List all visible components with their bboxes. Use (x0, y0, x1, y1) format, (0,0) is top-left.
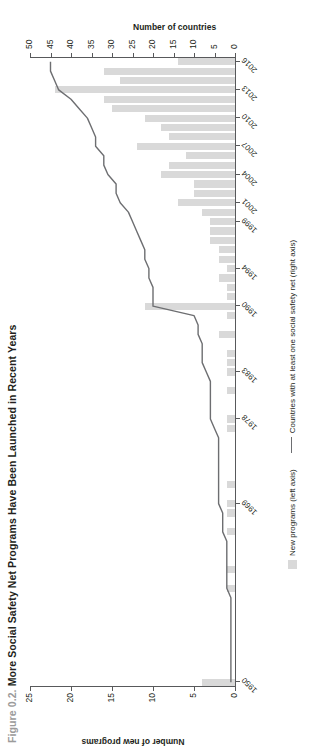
figure-title-text: More Social Safety Net Programs Have Bee… (6, 325, 18, 687)
legend-label-bars: New programs (left axis) (288, 469, 297, 556)
right-tick-label-0: 0 (229, 44, 239, 49)
x-tick-label-1950: 1950 (240, 676, 266, 702)
left-tick-label-20: 20 (65, 693, 75, 702)
x-tick-label-2004: 2004 (240, 168, 266, 194)
bottom-axis-line (235, 57, 236, 687)
right-tick-label-30: 30 (106, 40, 116, 49)
x-tick-label-1983: 1983 (240, 366, 266, 392)
legend-label-line: Countries with at least one social safet… (288, 240, 297, 433)
figure-container: Figure 0.2. More Social Safety Net Progr… (0, 0, 324, 749)
left-tick-0 (235, 687, 236, 691)
right-tick-label-45: 45 (45, 40, 55, 49)
right-tick-0 (235, 53, 236, 57)
chart-legend: New programs (left axis) Countries with … (288, 228, 297, 569)
right-tick-15 (174, 53, 175, 57)
line-series (30, 57, 235, 687)
plot-area: 0510152025 05101520253035404550 19501969… (30, 57, 235, 687)
left-axis-title: Number of new programs (81, 737, 184, 747)
x-tick-label-2010: 2010 (240, 112, 266, 138)
legend-item-line: Countries with at least one social safet… (288, 240, 297, 453)
x-tick-label-1978: 1978 (240, 413, 266, 439)
left-tick-25 (30, 687, 31, 691)
x-tick-label-2013: 2013 (240, 84, 266, 110)
x-tick-label-1969: 1969 (240, 497, 266, 523)
right-axis-title: Number of countries (133, 22, 216, 32)
right-tick-35 (92, 53, 93, 57)
figure-number: Figure 0.2. (6, 689, 18, 743)
right-tick-label-10: 10 (188, 40, 198, 49)
right-tick-label-20: 20 (147, 40, 157, 49)
right-tick-10 (194, 53, 195, 57)
right-tick-label-25: 25 (127, 40, 137, 49)
rotated-figure-canvas: Figure 0.2. More Social Safety Net Progr… (0, 0, 324, 749)
right-tick-label-15: 15 (168, 40, 178, 49)
left-tick-15 (112, 687, 113, 691)
line-swatch-icon (291, 437, 292, 453)
right-tick-5 (215, 53, 216, 57)
x-tick-label-2007: 2007 (240, 140, 266, 166)
left-tick-20 (71, 687, 72, 691)
right-tick-40 (71, 53, 72, 57)
right-tick-50 (30, 53, 31, 57)
left-tick-label-5: 5 (188, 693, 198, 698)
right-tick-25 (133, 53, 134, 57)
right-tick-30 (112, 53, 113, 57)
right-tick-20 (153, 53, 154, 57)
bar-swatch-icon (288, 560, 297, 569)
right-tick-45 (51, 53, 52, 57)
right-tick-label-50: 50 (24, 40, 34, 49)
x-tick-label-1994: 1994 (240, 262, 266, 288)
left-tick-10 (153, 687, 154, 691)
left-tick-5 (194, 687, 195, 691)
left-tick-label-25: 25 (24, 693, 34, 702)
x-tick-label-1990: 1990 (240, 300, 266, 326)
left-tick-label-0: 0 (229, 693, 239, 698)
right-tick-label-5: 5 (209, 44, 219, 49)
x-tick-label-2016: 2016 (240, 55, 266, 81)
right-tick-label-35: 35 (86, 40, 96, 49)
left-tick-label-15: 15 (106, 693, 116, 702)
line-path (51, 62, 231, 683)
right-tick-label-40: 40 (65, 40, 75, 49)
legend-item-bars: New programs (left axis) (288, 469, 297, 569)
left-tick-label-10: 10 (147, 693, 157, 702)
figure-title: Figure 0.2. More Social Safety Net Progr… (6, 325, 18, 743)
